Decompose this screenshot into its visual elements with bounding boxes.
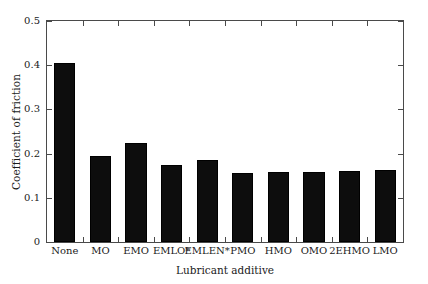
y-tick-left — [47, 242, 52, 243]
bar-none — [54, 63, 75, 242]
x-tick-top — [83, 21, 84, 26]
x-tick-bottom — [189, 237, 190, 242]
y-tick-label: 0.1 — [6, 193, 40, 203]
y-tick-label: 0.3 — [6, 104, 40, 114]
y-tick-label: 0.2 — [6, 149, 40, 159]
x-tick-bottom — [296, 237, 297, 242]
y-tick-right — [398, 65, 403, 66]
x-tick-bottom — [367, 237, 368, 242]
y-tick-label: 0.4 — [6, 60, 40, 70]
y-tick-right — [398, 154, 403, 155]
bar-omo — [303, 172, 324, 242]
x-tick-top — [189, 21, 190, 26]
x-tick-bottom — [225, 237, 226, 242]
y-tick-left — [47, 109, 52, 110]
x-tick-top — [154, 21, 155, 26]
x-tick-top — [225, 21, 226, 26]
bar-lmo — [375, 170, 396, 242]
bar-pmo — [232, 173, 253, 242]
bar-2ehmo — [339, 171, 360, 242]
plot-area — [46, 20, 404, 243]
bar-emo — [125, 143, 146, 242]
y-tick-label: 0.5 — [6, 16, 40, 26]
x-axis-title: Lubricant additive — [46, 264, 404, 276]
bar-emlenstar — [197, 160, 218, 242]
x-tick-bottom — [332, 237, 333, 242]
bar-hmo — [268, 172, 289, 242]
bar-mo — [90, 156, 111, 242]
x-tick-bottom — [83, 237, 84, 242]
y-tick-left — [47, 65, 52, 66]
x-tick-bottom — [154, 237, 155, 242]
y-axis-title: Coefficient of friction — [8, 20, 24, 244]
y-tick-left — [47, 21, 52, 22]
x-tick-bottom — [261, 237, 262, 242]
y-tick-left — [47, 198, 52, 199]
x-tick-top — [332, 21, 333, 26]
bar-emlostar — [161, 165, 182, 242]
bar-chart-figure: Coefficient of friction 00.10.20.30.40.5… — [0, 0, 428, 284]
y-tick-right — [398, 109, 403, 110]
x-tick-label: LMO — [355, 245, 415, 257]
x-tick-top — [261, 21, 262, 26]
x-tick-bottom — [118, 237, 119, 242]
y-tick-right — [398, 242, 403, 243]
x-tick-top — [118, 21, 119, 26]
y-tick-right — [398, 21, 403, 22]
x-tick-top — [367, 21, 368, 26]
bar-series — [47, 21, 403, 242]
x-tick-top — [296, 21, 297, 26]
y-tick-left — [47, 154, 52, 155]
y-tick-right — [398, 198, 403, 199]
